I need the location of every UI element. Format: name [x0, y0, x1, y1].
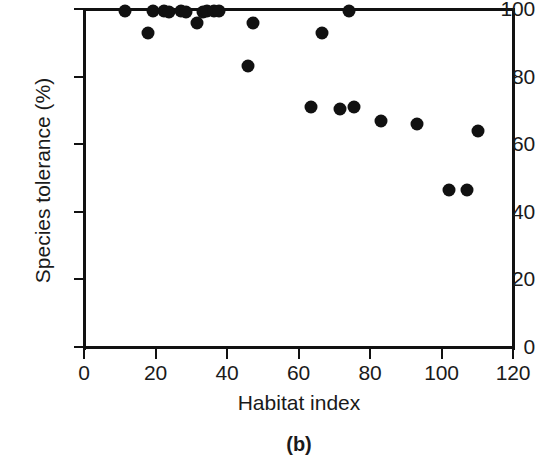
data-point	[334, 102, 347, 115]
data-point	[461, 183, 474, 196]
data-point	[213, 4, 226, 17]
data-point	[411, 117, 424, 130]
data-point	[347, 101, 360, 114]
data-point	[119, 4, 132, 17]
y-axis-title: Species tolerance (%)	[32, 51, 53, 311]
data-point	[316, 26, 329, 39]
data-point	[471, 124, 484, 137]
x-axis-title: Habitat index	[83, 392, 515, 413]
data-point	[443, 183, 456, 196]
scatter-plot-figure: 020406080100 020406080100120 Species tol…	[0, 0, 535, 462]
data-point	[246, 16, 259, 29]
panel-label: (b)	[83, 434, 515, 454]
data-point	[342, 4, 355, 17]
data-point	[304, 101, 317, 114]
data-point	[375, 114, 388, 127]
data-point	[242, 60, 255, 73]
data-point	[179, 6, 192, 19]
data-point	[142, 26, 155, 39]
